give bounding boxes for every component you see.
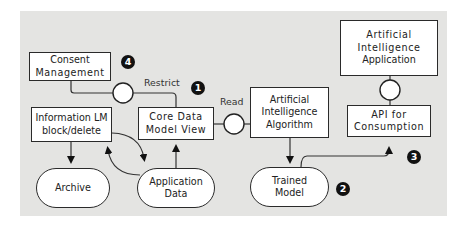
node-label: Consent — [35, 54, 104, 67]
api-interface-circle — [380, 80, 400, 100]
read-interface-circle — [224, 114, 244, 134]
step-badge-3: 3 — [407, 150, 421, 164]
archive-node: Archive — [36, 168, 110, 208]
node-label: Artificial — [262, 94, 318, 107]
node-label: Model View — [146, 124, 207, 137]
node-label: Archive — [55, 182, 91, 195]
node-label: Intelligence — [357, 42, 420, 55]
node-label: Data — [149, 188, 203, 201]
node-label: Algorithm — [262, 119, 318, 132]
read-label: Read — [220, 96, 244, 107]
step-badge-1: 1 — [191, 81, 205, 95]
api-for-consumption-node: API forConsumption — [347, 105, 431, 137]
information-lm-node: Information LMblock/delete — [31, 107, 112, 142]
node-label: Information LM — [35, 112, 107, 125]
consent-management-node: ConsentManagement — [29, 52, 111, 81]
trained-model-node: TrainedModel — [250, 167, 329, 207]
node-label: API for — [354, 109, 424, 122]
node-label: Application — [357, 54, 420, 67]
step-badge-2: 2 — [336, 182, 350, 196]
node-label: Intelligence — [262, 106, 318, 119]
node-label: Model — [272, 187, 307, 200]
node-label: Consumption — [354, 121, 424, 134]
node-label: Trained — [272, 175, 307, 188]
node-label: Management — [35, 67, 104, 80]
ai-application-node: ArtificialIntelligenceApplication — [340, 20, 438, 76]
node-label: block/delete — [35, 125, 107, 138]
node-label: Artificial — [357, 29, 420, 42]
ai-algorithm-node: ArtificialIntelligenceAlgorithm — [250, 87, 329, 138]
core-data-model-view-node: Core DataModel View — [138, 107, 214, 140]
step-badge-4: 4 — [121, 55, 135, 69]
application-data-node: ApplicationData — [137, 168, 215, 208]
node-label: Core Data — [146, 111, 207, 124]
restrict-interface-circle — [113, 83, 133, 103]
node-label: Application — [149, 176, 203, 189]
restrict-label: Restrict — [144, 77, 180, 88]
